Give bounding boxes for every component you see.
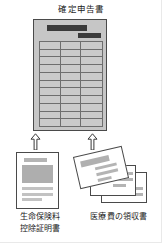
table-cell [81, 112, 101, 119]
table-cell [40, 104, 61, 111]
insurance-certificate-document [16, 152, 59, 209]
table-row [40, 50, 102, 58]
table-cell [40, 65, 61, 72]
table-row [40, 104, 102, 112]
table-cell [40, 57, 61, 64]
table-cell [81, 65, 101, 72]
receipt-text-line [113, 184, 126, 187]
table-row [40, 73, 102, 81]
document-header-bar [24, 158, 47, 162]
table-row [40, 57, 102, 65]
receipt-text-line [98, 176, 112, 182]
table-row [40, 42, 102, 50]
diagram-canvas: 確定申告書 [0, 0, 163, 244]
table-cell [61, 96, 81, 103]
table-cell [81, 42, 101, 49]
table-cell [81, 119, 101, 126]
table-row [40, 81, 102, 89]
table-row [40, 65, 102, 73]
caption-line: 医療費の領収書 [80, 211, 158, 223]
table-cell [61, 81, 81, 88]
table-cell [40, 112, 61, 119]
table-row [40, 88, 102, 96]
table-cell [61, 73, 81, 80]
table-cell [40, 50, 61, 57]
table-cell [81, 73, 101, 80]
table-cell [40, 96, 61, 103]
tax-return-form [33, 19, 107, 131]
table-cell [40, 119, 61, 126]
table-cell [81, 104, 101, 111]
table-cell [61, 42, 81, 49]
document-text-line [22, 193, 53, 196]
form-table [39, 41, 103, 127]
table-row [40, 119, 102, 126]
arrow-up-icon [30, 133, 41, 150]
table-cell [61, 65, 81, 72]
medical-receipts-stack [74, 148, 160, 210]
form-header-bar-primary [47, 25, 87, 31]
table-cell [81, 96, 101, 103]
table-cell [61, 112, 81, 119]
table-cell [81, 88, 101, 95]
form-header-bar-secondary [78, 33, 101, 39]
table-cell [40, 81, 61, 88]
table-cell [61, 57, 81, 64]
caption-line: 生命保険料 [10, 211, 70, 223]
table-cell [61, 119, 81, 126]
table-cell [81, 57, 101, 64]
table-cell [61, 104, 81, 111]
caption-line: 控除証明書 [10, 223, 70, 235]
document-content-block [22, 165, 53, 183]
table-cell [61, 50, 81, 57]
document-text-line [22, 187, 53, 190]
table-cell [61, 88, 81, 95]
caption-insurance-certificate: 生命保険料 控除証明書 [10, 211, 70, 234]
page-title: 確定申告書 [0, 4, 163, 15]
document-text-line [22, 198, 42, 201]
table-cell [40, 73, 61, 80]
caption-medical-receipts: 医療費の領収書 [80, 211, 158, 223]
table-row [40, 112, 102, 120]
table-row [40, 96, 102, 104]
table-cell [40, 88, 61, 95]
table-cell [81, 50, 101, 57]
table-cell [40, 42, 61, 49]
table-cell [81, 81, 101, 88]
